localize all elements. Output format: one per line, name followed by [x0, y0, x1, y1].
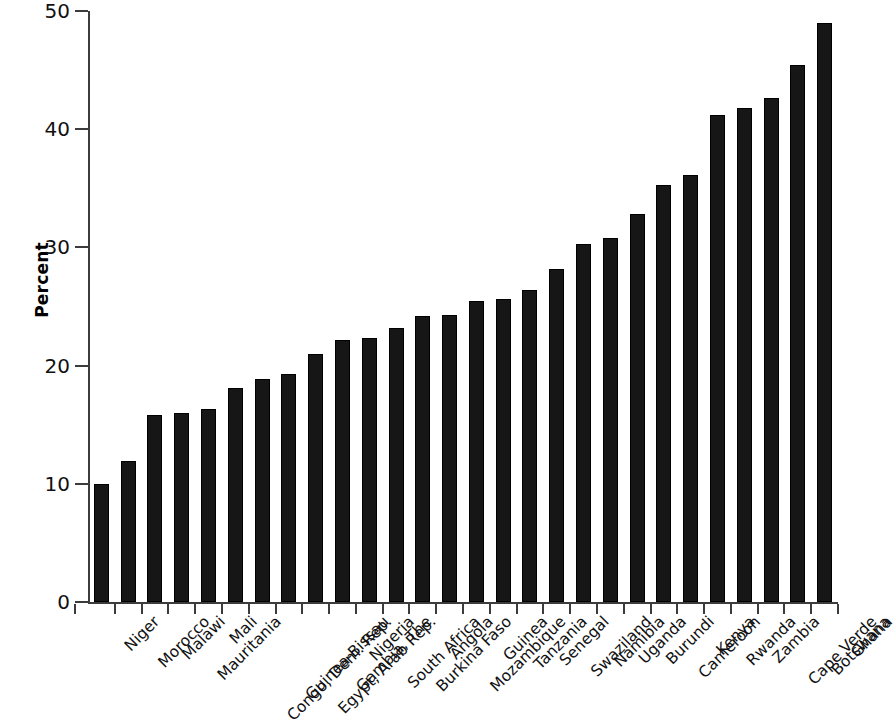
- bar: [656, 185, 671, 602]
- x-axis-tick: [757, 604, 759, 614]
- x-axis-tick: [489, 604, 491, 614]
- bar: [335, 340, 350, 602]
- x-axis-tick: [435, 604, 437, 614]
- x-axis-tick: [650, 604, 652, 614]
- y-axis-tick: [75, 483, 88, 485]
- bar: [683, 175, 698, 602]
- x-axis-tick: [542, 604, 544, 614]
- bar: [790, 65, 805, 602]
- bar: [281, 374, 296, 602]
- x-axis-tick: [730, 604, 732, 614]
- x-axis-tick: [569, 604, 571, 614]
- bar: [764, 98, 779, 602]
- y-axis-tick: [75, 10, 88, 12]
- bar: [496, 299, 511, 602]
- y-axis-tick: [75, 128, 88, 130]
- bar: [576, 244, 591, 602]
- bar: [710, 115, 725, 602]
- bar: [630, 214, 645, 602]
- x-axis-tick: [194, 604, 196, 614]
- bar: [469, 301, 484, 602]
- x-axis-tick: [74, 604, 76, 614]
- bar: [415, 316, 430, 602]
- bar: [228, 388, 243, 602]
- x-axis-tick: [623, 604, 625, 614]
- y-axis-tick-label: 20: [12, 356, 70, 376]
- x-axis-tick: [167, 604, 169, 614]
- y-axis-tick-label: 30: [12, 237, 70, 257]
- x-axis-tick: [328, 604, 330, 614]
- bar: [389, 328, 404, 602]
- x-axis-tick: [141, 604, 143, 614]
- x-axis-tick: [837, 604, 839, 614]
- bar: [817, 23, 832, 602]
- bar: [147, 415, 162, 602]
- x-axis-category-label: Niger: [123, 614, 163, 654]
- bar: [362, 338, 377, 602]
- y-axis-tick-label: 50: [12, 1, 70, 21]
- bar: [201, 409, 216, 602]
- bar: [549, 269, 564, 602]
- x-axis-tick: [408, 604, 410, 614]
- bar: [442, 315, 457, 602]
- bar: [255, 379, 270, 602]
- bar: [174, 413, 189, 602]
- x-axis-tick: [355, 604, 357, 614]
- x-axis-tick: [221, 604, 223, 614]
- plot-area: [88, 11, 838, 602]
- x-axis-tick: [275, 604, 277, 614]
- y-axis-tick: [75, 601, 88, 603]
- bar: [94, 484, 109, 602]
- y-axis-tick-label: 40: [12, 119, 70, 139]
- x-axis-tick: [114, 604, 116, 614]
- x-axis-category-labels: NigerMoroccoMalawiMauritaniaMaliCongo, D…: [0, 614, 838, 720]
- y-axis-tick: [75, 365, 88, 367]
- y-axis-tick-label: 10: [12, 474, 70, 494]
- bar: [522, 290, 537, 602]
- bar: [737, 108, 752, 602]
- bar: [308, 354, 323, 602]
- y-axis-tick: [75, 246, 88, 248]
- x-axis-tick: [516, 604, 518, 614]
- bar: [603, 238, 618, 602]
- x-axis-tick: [596, 604, 598, 614]
- x-axis-tick: [301, 604, 303, 614]
- bar: [121, 461, 136, 602]
- y-axis-tick-label: 0: [12, 592, 70, 612]
- x-axis-tick: [462, 604, 464, 614]
